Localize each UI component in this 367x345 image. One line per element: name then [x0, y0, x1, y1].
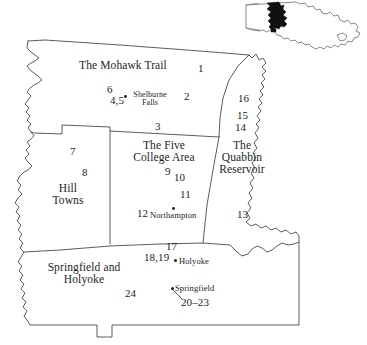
site-number-15: 15	[237, 110, 248, 122]
site-number-6: 6	[107, 84, 113, 96]
site-number-7: 7	[70, 146, 76, 158]
site-number-11: 11	[180, 189, 191, 201]
site-number-3: 3	[155, 121, 161, 133]
region-label-hill-towns: Hill Towns	[38, 182, 98, 206]
site-number-8: 8	[82, 167, 88, 179]
site-number-9: 9	[165, 166, 171, 178]
site-number-1: 1	[198, 63, 204, 75]
site-number-4-5: 4,5	[110, 95, 124, 107]
city-label-northampton: Northampton	[150, 211, 204, 220]
massachusetts-inset-group	[246, 2, 360, 49]
massachusetts-outline-shape	[246, 2, 360, 49]
region-label-springfield-and-holyoke: Springfield and Holyoke	[34, 261, 134, 285]
region-map: The Mohawk Trail The Five College Area T…	[0, 0, 367, 345]
holyoke-dot	[174, 259, 177, 262]
inset-highlight-nub	[271, 29, 276, 32]
city-label-springfield: Springfield	[175, 284, 223, 293]
city-label-holyoke: Holyoke	[179, 257, 219, 266]
site-number-2: 2	[184, 91, 190, 103]
site-number-13: 13	[237, 209, 248, 221]
site-number-18-19: 18,19	[144, 252, 169, 264]
site-number-12: 12	[137, 208, 148, 220]
region-label-five-college-area: The Five College Area	[120, 139, 208, 163]
region-label-quabbin-reservoir: The Quabbin Reservoir	[208, 139, 276, 175]
region-label-mohawk-trail: The Mohawk Trail	[63, 59, 183, 71]
site-number-14: 14	[235, 122, 246, 134]
city-label-shelburne-falls: Shelburne Falls	[127, 91, 173, 107]
site-number-20-23: 20–23	[181, 297, 209, 309]
site-number-16: 16	[238, 93, 249, 105]
site-number-24: 24	[125, 288, 136, 300]
site-number-10: 10	[174, 172, 185, 184]
